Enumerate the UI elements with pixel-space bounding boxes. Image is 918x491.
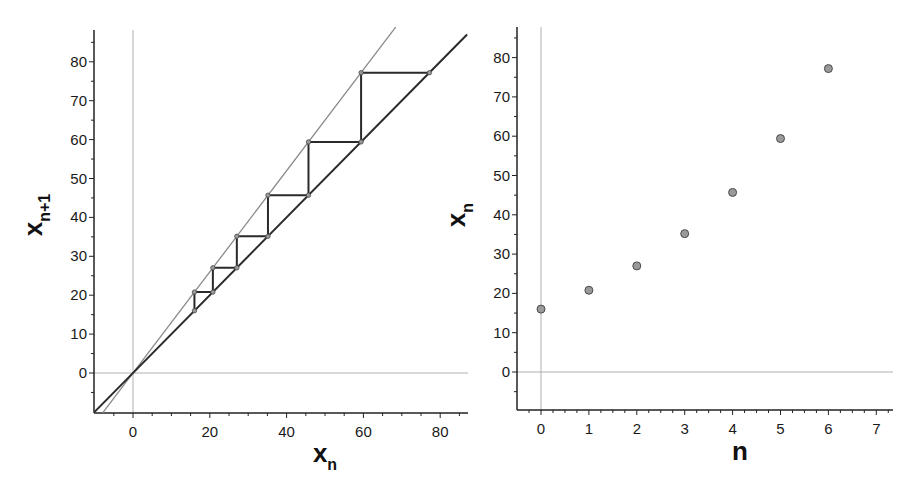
y-tick-label: 10 <box>493 324 510 341</box>
x-tick-label: 5 <box>776 420 784 437</box>
y-tick-label: 0 <box>502 363 510 380</box>
y-tick-label: 10 <box>70 325 87 342</box>
y-tick-label: 40 <box>493 206 510 223</box>
cobweb-vertex <box>235 234 239 238</box>
x-tick-label: 1 <box>585 420 593 437</box>
cobweb-vertex <box>306 140 310 144</box>
y-tick-label: 50 <box>493 167 510 184</box>
cobweb-chart: 02040608001020304050607080xn+1xn <box>18 27 468 473</box>
x-tick-label: 3 <box>681 420 689 437</box>
cobweb-vertex <box>235 266 239 270</box>
x-axis-title: xn <box>313 438 337 473</box>
cobweb-vertex <box>211 266 215 270</box>
x-tick-label: 6 <box>824 420 832 437</box>
data-point <box>681 230 689 238</box>
y-tick-label: 30 <box>493 245 510 262</box>
y-tick-label: 50 <box>70 170 87 187</box>
y-tick-label: 60 <box>493 127 510 144</box>
cobweb-vertex <box>192 290 196 294</box>
x-tick-label: 7 <box>872 420 880 437</box>
cobweb-vertex <box>192 309 196 313</box>
cobweb-vertex <box>266 234 270 238</box>
data-point <box>777 135 785 143</box>
x-axis-title: n <box>732 436 748 466</box>
y-axis-title: xn+1 <box>18 194 53 237</box>
function-line <box>103 27 396 413</box>
y-tick-label: 80 <box>493 49 510 66</box>
x-tick-label: 2 <box>633 420 641 437</box>
cobweb-vertex <box>427 70 431 74</box>
data-point <box>824 65 832 73</box>
cobweb-vertex <box>359 70 363 74</box>
y-tick-label: 40 <box>70 208 87 225</box>
y-tick-label: 70 <box>70 92 87 109</box>
cobweb-vertex <box>266 193 270 197</box>
x-tick-label: 0 <box>129 423 137 440</box>
y-tick-label: 0 <box>79 364 87 381</box>
x-tick-label: 0 <box>537 420 545 437</box>
y-tick-label: 20 <box>70 286 87 303</box>
x-tick-label: 80 <box>432 423 449 440</box>
cobweb-vertex <box>211 290 215 294</box>
y-tick-label: 30 <box>70 247 87 264</box>
y-tick-label: 20 <box>493 284 510 301</box>
x-tick-label: 4 <box>728 420 736 437</box>
y-axis-title: xn <box>441 203 476 227</box>
sequence-scatter-chart: 0123456701020304050607080xnn <box>441 27 893 466</box>
data-point <box>729 188 737 196</box>
x-tick-label: 40 <box>278 423 295 440</box>
data-point <box>537 305 545 313</box>
x-tick-label: 60 <box>355 423 372 440</box>
cobweb-vertex <box>359 140 363 144</box>
identity-line <box>95 35 467 412</box>
cobweb-vertex <box>306 193 310 197</box>
chart-canvas: 02040608001020304050607080xn+1xn 0123456… <box>0 0 918 491</box>
y-tick-label: 60 <box>70 131 87 148</box>
y-tick-label: 70 <box>493 88 510 105</box>
y-tick-label: 80 <box>70 53 87 70</box>
data-point <box>633 262 641 270</box>
x-tick-label: 20 <box>201 423 218 440</box>
data-point <box>585 286 593 294</box>
